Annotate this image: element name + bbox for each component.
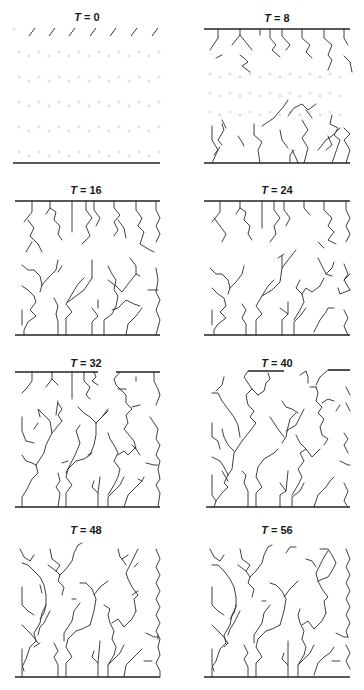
panel-t16: T = 16 xyxy=(0,170,182,345)
lattice-diagram xyxy=(182,345,364,520)
lattice-diagram xyxy=(182,0,364,170)
panel-t40: T = 40 xyxy=(182,345,364,520)
lattice-diagram xyxy=(0,0,182,170)
panel-t0: T = 0 xyxy=(0,0,182,170)
panel-t56: T = 56 xyxy=(182,515,364,690)
lattice-diagram xyxy=(182,515,364,690)
panel-t8: T = 8 xyxy=(182,0,364,170)
panel-t24: T = 24 xyxy=(182,170,364,345)
lattice-diagram xyxy=(0,515,182,690)
lattice-diagram xyxy=(0,170,182,345)
panel-t48: T = 48 xyxy=(0,515,182,690)
panel-t32: T = 32 xyxy=(0,345,182,520)
lattice-diagram xyxy=(182,170,364,345)
lattice-diagram xyxy=(0,345,182,520)
